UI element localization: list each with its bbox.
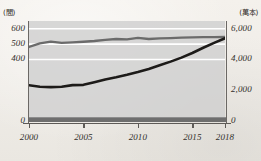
series-line-gray [29,37,225,47]
series-line-black [29,38,225,87]
x-tick-mark-2018 [225,123,226,128]
left-tick-0: 0 [1,115,25,125]
right-tick-4000: 4,000 [231,53,252,63]
left-tick-600: 600 [1,23,25,33]
right-tick-0: 0 [231,115,236,125]
x-tick-2018: 2018 [210,132,240,142]
x-tick-mark-2015 [192,123,193,128]
gridlines [29,29,225,60]
x-tick-mark-2005 [83,123,84,128]
right-axis-unit-label: (萬本) [239,7,258,17]
x-tick-2005: 2005 [68,132,98,142]
right-tick-2000: 2,000 [231,84,252,94]
zero-baseline-bar [29,117,227,122]
left-axis-unit-label: (間) [3,7,15,17]
left-axis-line [28,21,29,123]
x-tick-2015: 2015 [177,132,207,142]
x-tick-mark-2000 [29,123,30,128]
right-axis-line [226,21,227,123]
left-tick-400: 400 [1,53,25,63]
right-tick-6000: 6,000 [231,23,252,33]
chart-figure: (間) (萬本) 0400500600 02,0004,0006,000 200… [0,0,261,161]
plot-area [29,21,225,121]
x-axis-line [23,123,231,124]
left-tick-500: 500 [1,38,25,48]
x-tick-2010: 2010 [123,132,153,142]
x-tick-2000: 2000 [14,132,44,142]
x-tick-mark-2010 [138,123,139,128]
